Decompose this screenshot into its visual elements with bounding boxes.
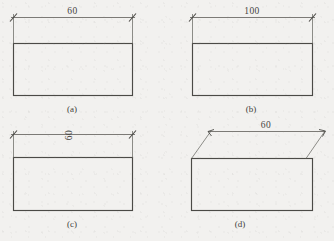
panel-c-dimension-value: 60 [64,130,74,140]
panel-a-caption: (a) [67,104,77,114]
panel-d-extension-line-left [192,131,212,159]
panel-b: 100 (b) [189,6,316,114]
panel-c-rectangle [14,158,133,211]
panel-d-rectangle [192,159,313,211]
panel-d-terminator-left [208,130,214,137]
dimensioning-figure: 60 (a) 100 (b) 60 (c) [0,0,334,241]
panel-d-extension-line-right [306,131,325,159]
figure-canvas: 60 (a) 100 (b) 60 (c) [0,0,334,241]
panel-d: 60 (d) [192,120,326,229]
panel-b-caption: (b) [246,104,257,114]
panel-b-rectangle [193,44,313,96]
panel-b-dimension-value: 100 [244,6,259,16]
panel-d-caption: (d) [235,219,246,229]
panel-d-dimension-value: 60 [261,120,271,130]
panel-c: 60 (c) [10,130,136,229]
panel-c-caption: (c) [67,219,77,229]
panel-a-rectangle [14,44,133,96]
panel-a-dimension-value: 60 [67,6,77,16]
panel-a: 60 (a) [10,6,136,114]
